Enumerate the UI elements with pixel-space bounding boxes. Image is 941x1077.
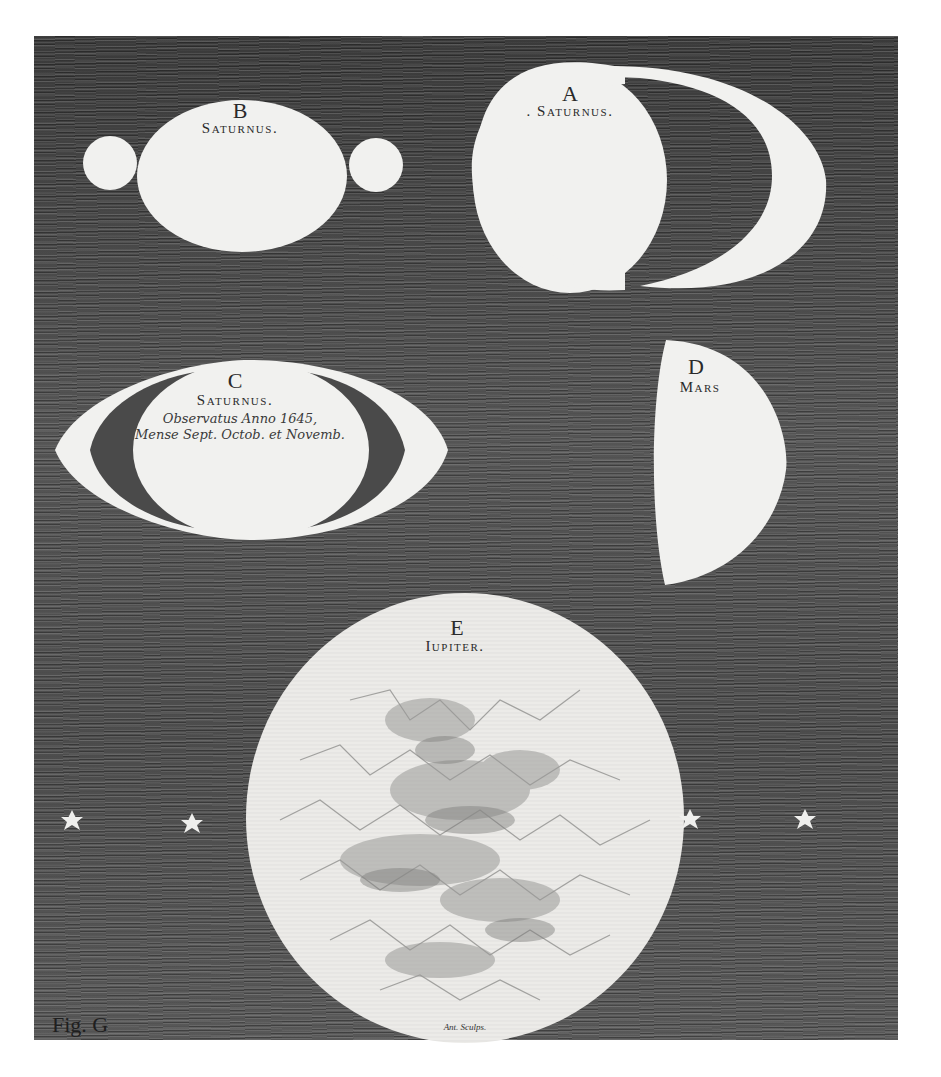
figure-a-saturn (472, 62, 826, 293)
star-icon (61, 810, 83, 830)
figure-b-name: Saturnus. (180, 121, 300, 136)
figure-mark: Fig. G (52, 1012, 108, 1038)
figure-e-name: Iupiter. (390, 639, 520, 654)
planet-figures (0, 0, 941, 1077)
figure-c-caption-line2: Mense Sept. Octob. et Novemb. (115, 428, 365, 441)
figure-d-letter: D (681, 356, 711, 378)
engraver-signature: Ant. Sculps. (420, 1023, 510, 1032)
star-icon (181, 813, 203, 833)
figure-a-letter: A (555, 83, 585, 105)
figure-c-saturn (55, 360, 448, 540)
figure-c-name: Saturnus. (170, 393, 300, 408)
star-icon (794, 809, 816, 829)
figure-e-jupiter (246, 593, 684, 1043)
figure-c-caption-line1: Observatus Anno 1645, (120, 412, 360, 425)
figure-b-letter: B (225, 100, 255, 122)
figure-d-name: Mars (660, 380, 740, 395)
figure-e-letter: E (442, 617, 472, 639)
figure-d-mars (654, 340, 787, 585)
figure-a-name: . Saturnus. (500, 104, 640, 119)
figure-c-letter: C (220, 370, 250, 392)
